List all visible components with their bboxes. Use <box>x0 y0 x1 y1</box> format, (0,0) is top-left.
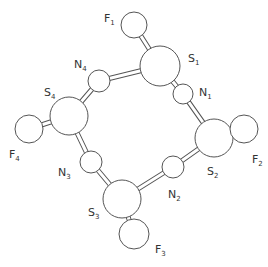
molecule-diagram: F1S1N1S2F2N2S3F3N3S4F4N4 <box>0 0 268 267</box>
atom-s2 <box>195 119 233 157</box>
atom-s4 <box>50 97 88 135</box>
atom-f3 <box>119 219 149 249</box>
atom-label-s4: S4 <box>44 86 56 101</box>
atom-label-n2: N2 <box>168 188 181 203</box>
atom-s1 <box>140 46 180 86</box>
atom-s3 <box>103 180 141 218</box>
atom-label-f3: F3 <box>155 243 166 258</box>
atom-label-s1: S1 <box>188 52 199 67</box>
atoms-layer <box>15 12 258 249</box>
atom-n2 <box>162 156 184 178</box>
atom-label-f2: F2 <box>252 153 263 168</box>
atom-n4 <box>88 70 110 92</box>
atom-label-n3: N3 <box>58 166 71 181</box>
atom-label-f4: F4 <box>9 148 20 163</box>
atom-label-f1: F1 <box>104 12 115 27</box>
atom-label-s2: S2 <box>207 165 218 180</box>
atom-label-n1: N1 <box>199 86 212 101</box>
atom-f4 <box>15 115 43 143</box>
atom-label-n4: N4 <box>74 58 87 73</box>
atom-f1 <box>121 12 147 38</box>
atom-n3 <box>80 151 102 173</box>
atom-f2 <box>230 115 258 143</box>
atom-label-s3: S3 <box>88 206 99 221</box>
atom-n1 <box>173 84 193 104</box>
